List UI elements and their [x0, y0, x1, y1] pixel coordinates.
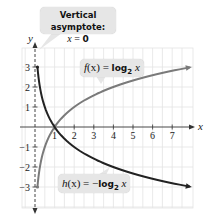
y-axis-arrow-up: [33, 42, 38, 48]
x-axis-label: x: [197, 120, 203, 132]
x-tick-label: 6: [150, 130, 155, 141]
x-tick-label: 3: [91, 130, 96, 141]
x-tick-label: 5: [131, 130, 136, 141]
f-paren: (x) =: [87, 61, 112, 73]
y-tick-label: −3: [19, 182, 30, 193]
x-tick-label: 4: [111, 130, 116, 141]
y-axis-label: y: [27, 32, 33, 44]
y-tick-label: 3: [25, 62, 30, 73]
asymptote-equals: =: [72, 33, 83, 44]
f-arg: x: [132, 61, 140, 73]
y-tick-label: 2: [25, 82, 30, 93]
y-tick-label: −2: [19, 162, 30, 173]
f-log: log: [112, 63, 128, 73]
asymptote-callout: Vertical asymptote: x = 0: [40, 7, 116, 34]
asymptote-callout-equation: x = 0: [40, 33, 116, 45]
h-arg: x: [119, 177, 127, 189]
x-tick-label: 1: [52, 130, 57, 141]
curve-arrow-h: [185, 183, 191, 189]
curve-arrow-f: [185, 65, 191, 71]
y-tick-label: 1: [25, 102, 30, 113]
x-tick-label: 7: [170, 130, 175, 141]
h-function-label: h(x) = −log2 x: [58, 174, 130, 193]
h-paren: (x) = −: [68, 177, 99, 189]
f-label-pointer: [96, 76, 106, 84]
x-axis-arrow: [189, 125, 195, 130]
y-axis-arrow-down: [33, 208, 38, 214]
asymptote-value: 0: [82, 34, 88, 44]
curve-start-h: [36, 65, 39, 68]
h-log: log: [98, 179, 114, 189]
curve-start-f: [36, 185, 39, 188]
x-tick-label: 2: [72, 130, 77, 141]
y-tick-label: −1: [19, 142, 30, 153]
asymptote-callout-title: Vertical asymptote:: [40, 9, 116, 33]
f-function-label: f(x) = log2 x: [80, 59, 144, 77]
